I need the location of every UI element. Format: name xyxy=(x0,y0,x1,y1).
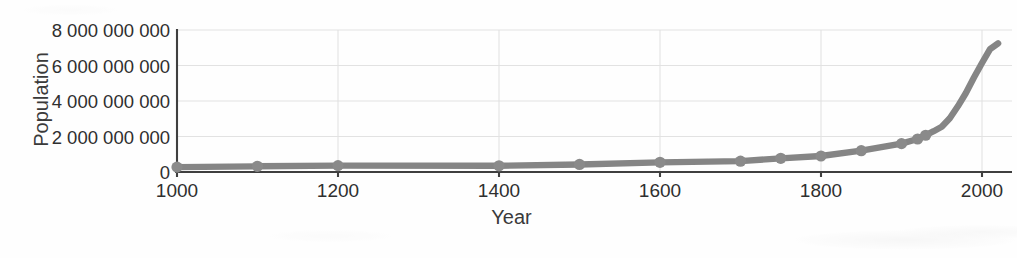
gridlines xyxy=(177,30,1012,172)
x-axis-title-text: Year xyxy=(491,206,531,228)
x-tick-label-1800: 1800 xyxy=(800,180,842,202)
x-tick-label-2000: 2000 xyxy=(961,180,1003,202)
x-tick-label-1200: 1200 xyxy=(317,180,359,202)
x-tick-label-1400: 1400 xyxy=(478,180,520,202)
x-tick-label-1600: 1600 xyxy=(639,180,681,202)
population-chart-figure: Population 8 000 000 000 6 000 000 000 4… xyxy=(0,0,1017,258)
x-tick-label-1000: 1000 xyxy=(156,180,198,202)
population-line-series xyxy=(177,43,998,167)
x-axis-title: Year xyxy=(0,206,1017,229)
